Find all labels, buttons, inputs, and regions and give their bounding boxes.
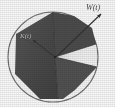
center-vertex [54,56,56,58]
label-w-of-t: W(t) [86,4,100,12]
figure-container: W(t) K(t) [0,0,115,107]
label-inner-annotation: K(t) [20,33,31,40]
geometric-diagram [0,0,115,107]
